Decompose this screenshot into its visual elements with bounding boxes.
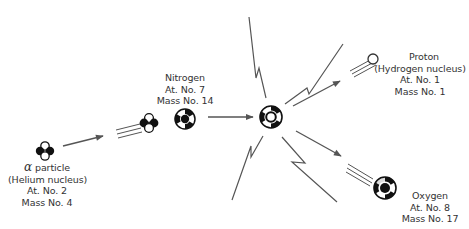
oxygen-atomic-number: At. No. 8 [392, 202, 468, 214]
alpha-mass-number: Mass No. 4 [8, 197, 86, 209]
alpha-subtitle: (Helium nucleus) [8, 174, 86, 186]
nitrogen-atomic-number: At. No. 7 [150, 84, 220, 96]
proton-name: Proton [372, 51, 468, 63]
oxygen-name: Oxygen [392, 190, 468, 202]
alpha-nucleus-icon [140, 114, 159, 133]
alpha-atomic-number: At. No. 2 [8, 185, 86, 197]
oxygen-label: Oxygen At. No. 8 Mass No. 17 [392, 190, 468, 225]
arrow-icon [296, 131, 341, 156]
alpha-particle-label: α particle (Helium nucleus) At. No. 2 Ma… [8, 162, 86, 208]
proton-subtitle: (Hydrogen nucleus) [372, 63, 468, 75]
compound-nucleus-icon [260, 106, 282, 128]
alpha-name: particle [35, 162, 70, 173]
proton-atomic-number: At. No. 1 [372, 74, 468, 86]
alpha-nucleus-icon [36, 142, 54, 160]
nitrogen-nucleus-icon [175, 109, 195, 129]
nitrogen-name: Nitrogen [150, 72, 220, 84]
nitrogen-mass-number: Mass No. 14 [150, 95, 220, 107]
alpha-symbol: α [24, 160, 32, 174]
oxygen-mass-number: Mass No. 17 [392, 213, 468, 225]
proton-label: Proton (Hydrogen nucleus) At. No. 1 Mass… [372, 51, 468, 97]
proton-mass-number: Mass No. 1 [372, 86, 468, 98]
speed-lines-icon [116, 124, 142, 138]
arrow-icon [63, 136, 103, 146]
nitrogen-label: Nitrogen At. No. 7 Mass No. 14 [150, 72, 220, 107]
speed-lines-icon [346, 164, 373, 186]
lightning-bolt-icon [232, 17, 343, 202]
